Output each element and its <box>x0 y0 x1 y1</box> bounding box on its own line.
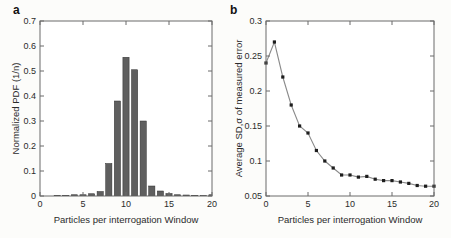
square-marker <box>374 178 377 181</box>
square-marker <box>273 40 276 43</box>
x-tick-label: 0 <box>37 199 42 209</box>
y-axis-label: Normalized PDF (1/n) <box>10 63 21 155</box>
y-tick-label: 0.3 <box>23 116 36 126</box>
x-tick-label: 10 <box>121 199 131 209</box>
x-tick-label: 20 <box>207 199 217 209</box>
x-tick-label: 0 <box>263 199 268 209</box>
y-tick-label: 0 <box>31 191 36 201</box>
figure: a 0510152000.10.20.30.40.50.60.7Particle… <box>0 0 451 238</box>
y-tick-label: 0.3 <box>249 16 262 26</box>
x-tick-label: 5 <box>80 199 85 209</box>
bar <box>140 121 146 196</box>
square-marker <box>424 185 427 188</box>
square-marker <box>332 166 335 169</box>
panel-b: b 051015200.050.10.150.20.250.3Particles… <box>225 0 451 238</box>
plot-background <box>266 21 434 196</box>
square-marker <box>340 173 343 176</box>
square-marker <box>290 103 293 106</box>
panel-a-chart: 0510152000.10.20.30.40.50.60.7Particles … <box>0 0 226 238</box>
square-marker <box>348 173 351 176</box>
panel-a: a 0510152000.10.20.30.40.50.60.7Particle… <box>0 0 226 238</box>
square-marker <box>390 179 393 182</box>
x-tick-label: 15 <box>387 199 397 209</box>
bar <box>132 70 138 196</box>
square-marker <box>407 182 410 185</box>
y-tick-label: 0.05 <box>244 191 262 201</box>
square-marker <box>365 175 368 178</box>
y-tick-label: 0.4 <box>23 91 36 101</box>
bar <box>149 186 155 196</box>
y-tick-label: 0.2 <box>23 141 36 151</box>
bar <box>157 191 163 196</box>
x-tick-label: 10 <box>345 199 355 209</box>
y-tick-label: 0.5 <box>23 66 36 76</box>
y-tick-label: 0.7 <box>23 16 36 26</box>
y-tick-label: 0.1 <box>249 156 262 166</box>
y-axis-label: Average SD,σ of measured error <box>233 40 244 178</box>
x-tick-label: 15 <box>164 199 174 209</box>
square-marker <box>298 124 301 127</box>
x-tick-label: 5 <box>305 199 310 209</box>
y-tick-label: 0.15 <box>244 121 262 131</box>
square-marker <box>323 159 326 162</box>
y-tick-label: 0.1 <box>23 166 36 176</box>
y-tick-label: 0.25 <box>244 51 262 61</box>
square-marker <box>399 180 402 183</box>
square-marker <box>281 75 284 78</box>
x-axis-label: Particles per interrogation Window <box>54 214 199 225</box>
panel-b-chart: 051015200.050.10.150.20.250.3Particles p… <box>225 0 451 238</box>
bar <box>97 192 103 197</box>
bar <box>114 101 120 196</box>
y-tick-label: 0.2 <box>249 86 262 96</box>
x-tick-label: 20 <box>429 199 439 209</box>
square-marker <box>306 131 309 134</box>
square-marker <box>357 176 360 179</box>
square-marker <box>416 184 419 187</box>
bar <box>123 57 129 196</box>
bar <box>106 164 112 197</box>
x-axis-label: Particles per interrogation Window <box>278 214 423 225</box>
square-marker <box>382 179 385 182</box>
square-marker <box>315 149 318 152</box>
y-tick-label: 0.6 <box>23 41 36 51</box>
